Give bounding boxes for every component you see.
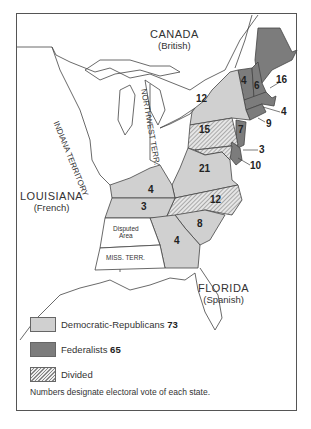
votes-sc: 8: [197, 218, 203, 230]
divided-swatch: [30, 367, 56, 382]
votes-ri: 4: [281, 106, 287, 118]
votes-ga: 4: [174, 235, 180, 247]
disputed-area-label: Disputed Area: [113, 225, 139, 240]
votes-de: 3: [259, 144, 265, 156]
democratic-republicans-swatch: [30, 317, 56, 332]
lake-superior: [85, 60, 180, 80]
votes-nc: 12: [210, 194, 221, 206]
votes-ma: 16: [276, 74, 287, 86]
legend-item-divided: Divided: [30, 366, 178, 382]
votes-ky: 4: [148, 184, 154, 196]
federalists-swatch: [30, 342, 56, 357]
florida-label: FLORIDA (Spanish): [198, 282, 249, 306]
votes-ct: 9: [266, 118, 272, 130]
legend-item-democratic-republicans: Democratic-Republicans 73: [30, 316, 178, 332]
votes-pa: 15: [199, 124, 210, 136]
votes-nj: 7: [238, 124, 244, 136]
votes-nh: 6: [254, 80, 260, 92]
canada-border: [17, 15, 258, 90]
votes-vt: 4: [241, 75, 247, 87]
legend: Democratic-Republicans 73 Federalists 65…: [30, 316, 178, 391]
state-ky: [110, 165, 175, 198]
votes-tn: 3: [141, 201, 147, 213]
legend-note: Numbers designate electoral vote of each…: [30, 387, 210, 397]
votes-va: 21: [199, 163, 210, 175]
votes-ny: 12: [196, 93, 207, 105]
canada-label: CANADA (British): [150, 28, 199, 52]
votes-md: 10: [250, 160, 261, 172]
miss-terr-label: MISS. TERR.: [106, 254, 145, 261]
louisiana-label: LOUISIANA (French): [20, 190, 83, 214]
legend-item-federalists: Federalists 65: [30, 341, 178, 357]
lake-michigan: [118, 85, 135, 135]
